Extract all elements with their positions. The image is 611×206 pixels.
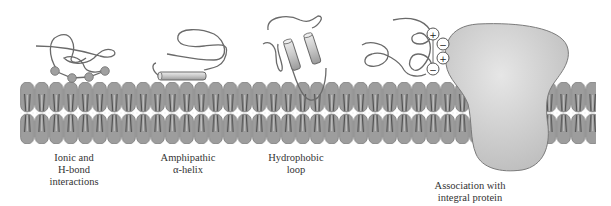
integral-association-protein-icon — [362, 18, 433, 76]
label-ionic-hbond: Ionic and H-bond interactions — [38, 152, 110, 188]
amphipathic-helix-protein-icon — [153, 30, 227, 80]
membrane-diagram: + − + − Ionic and H-bond interactions Am… — [0, 0, 611, 206]
svg-text:−: − — [439, 40, 447, 50]
negative-charge-icon: − — [437, 38, 449, 50]
negative-charge-icon: − — [427, 63, 439, 75]
label-hydrophobic-loop: Hydrophobic loop — [260, 152, 332, 176]
label-integral-association: Association with integral protein — [425, 180, 515, 204]
positive-charge-icon: + — [427, 28, 439, 40]
label-amphipathic-helix: Amphipathic α-helix — [152, 152, 224, 176]
positive-charge-icon: + — [437, 52, 449, 64]
svg-text:−: − — [429, 65, 437, 75]
svg-text:+: + — [429, 30, 437, 40]
ionic-hbond-protein-icon — [36, 35, 115, 83]
svg-text:+: + — [439, 54, 447, 64]
